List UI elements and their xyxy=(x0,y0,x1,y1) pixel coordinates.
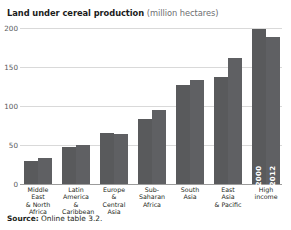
x-category-label: LatinAmerica &Caribbean xyxy=(62,186,90,216)
bar-group xyxy=(214,28,242,184)
x-category-label: Highincome xyxy=(252,186,280,216)
bar-2012 xyxy=(76,145,90,184)
plot-area: 20002012 xyxy=(20,28,282,184)
y-tick-100: 100 xyxy=(4,102,18,111)
y-tick-0: 0 xyxy=(13,180,18,189)
bar-2012: 2012 xyxy=(266,37,280,184)
gridline-0 xyxy=(20,184,282,185)
bar-2000 xyxy=(100,133,114,184)
bar-2012 xyxy=(152,110,166,184)
y-axis-labels: 050100150200 xyxy=(0,28,18,184)
chart-figure: Land under cereal production (million he… xyxy=(0,0,291,230)
bar-2000 xyxy=(138,119,152,184)
chart-title-main: Land under cereal production xyxy=(7,8,144,18)
bar-groups: 20002012 xyxy=(20,28,282,184)
bar-2000 xyxy=(24,161,38,184)
x-category-label: Europe& CentralAsia xyxy=(100,186,128,216)
source-label: Source: xyxy=(7,214,39,223)
bar-2012 xyxy=(38,158,52,184)
y-tick-50: 50 xyxy=(9,141,18,150)
series-label-2012: 2012 xyxy=(269,166,277,187)
bar-2012 xyxy=(190,80,204,184)
chart-title-units: (million hectares) xyxy=(147,8,219,18)
bar-2012 xyxy=(228,58,242,184)
series-label-2000: 2000 xyxy=(255,166,263,187)
bar-group xyxy=(138,28,166,184)
y-tick-200: 200 xyxy=(4,24,18,33)
bar-group xyxy=(62,28,90,184)
x-category-label: Sub-SaharanAfrica xyxy=(138,186,166,216)
x-category-label: SouthAsia xyxy=(176,186,204,216)
y-tick-150: 150 xyxy=(4,63,18,72)
bar-2000 xyxy=(62,147,76,184)
x-category-label: East Asia& Pacific xyxy=(214,186,242,216)
bar-2012 xyxy=(114,134,128,184)
bar-group: 20002012 xyxy=(252,28,280,184)
bar-2000 xyxy=(214,77,228,184)
bar-2000 xyxy=(176,85,190,184)
bar-2000: 2000 xyxy=(252,29,266,184)
x-category-label: Middle East& NorthAfrica xyxy=(24,186,52,216)
x-axis-categories: Middle East& NorthAfricaLatinAmerica &Ca… xyxy=(20,186,282,216)
source-note: Source: Online table 3.2. xyxy=(7,214,102,223)
bar-group xyxy=(176,28,204,184)
bar-group xyxy=(24,28,52,184)
chart-title: Land under cereal production (million he… xyxy=(7,8,285,18)
source-text: Online table 3.2. xyxy=(39,214,103,223)
bar-group xyxy=(100,28,128,184)
